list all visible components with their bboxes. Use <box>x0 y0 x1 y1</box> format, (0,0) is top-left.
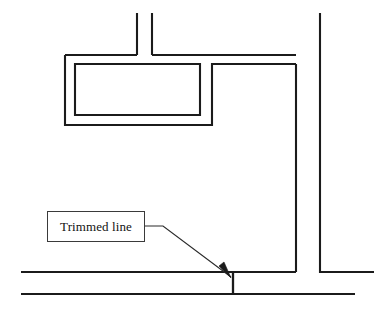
callout-box: Trimmed line <box>47 211 145 242</box>
figure-root: Trimmed line <box>0 0 374 311</box>
leader-group <box>145 226 231 278</box>
leader-line <box>145 226 231 277</box>
callout-label: Trimmed line <box>60 220 132 233</box>
diagram-canvas <box>0 0 374 311</box>
wall-right-vertical-outer <box>320 13 374 272</box>
wall-inner-room-rectangle <box>75 64 200 115</box>
